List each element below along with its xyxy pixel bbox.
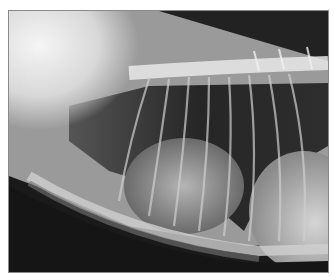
radiograph-image xyxy=(8,10,329,273)
xray-graphic xyxy=(9,11,328,272)
